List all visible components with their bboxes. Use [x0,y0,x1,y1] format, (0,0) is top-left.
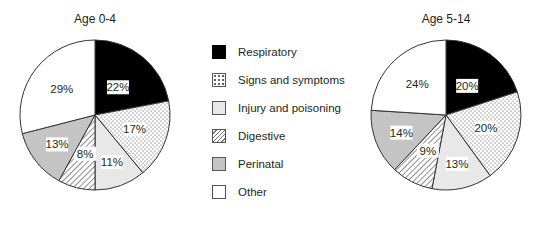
pie-age-0-4: 22%17%11%8%13%29% [20,40,170,190]
legend: Respiratory Signs and symptoms Injury an… [212,38,345,206]
legend-item-respiratory: Respiratory [212,38,345,66]
swatch-signs-and-symptoms [212,73,226,87]
swatch-other [212,185,226,199]
slice-label: 13% [46,138,69,150]
slice-label: 20% [474,122,497,134]
slice-label: 29% [50,83,73,95]
slice-label: 20% [456,80,479,92]
legend-item-signs-and-symptoms: Signs and symptoms [212,66,345,94]
slice-label: 13% [445,158,468,170]
slice-label: 8% [77,148,94,160]
slice-label: 22% [106,81,129,93]
slice-label: 14% [390,127,413,139]
swatch-digestive [212,129,226,143]
swatch-injury-and-poisoning [212,101,226,115]
slice-label: 11% [101,156,123,168]
legend-item-perinatal: Perinatal [212,150,345,178]
legend-item-digestive: Digestive [212,122,345,150]
slice-label: 24% [406,78,429,90]
swatch-respiratory [212,45,226,59]
swatch-perinatal [212,157,226,171]
pie-age-5-14: 20%20%13%9%14%24% [371,40,521,190]
legend-item-other: Other [212,178,345,206]
slice-label: 9% [420,145,437,157]
legend-item-injury-and-poisoning: Injury and poisoning [212,94,345,122]
slice-label: 17% [123,123,146,135]
